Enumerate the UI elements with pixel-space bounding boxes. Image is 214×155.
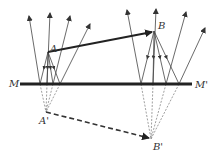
- label-B: B: [157, 20, 165, 31]
- virtual-ray: [141, 84, 151, 139]
- virtual-ray: [46, 84, 60, 112]
- reflected-ray: [29, 16, 40, 84]
- virtual-ray: [151, 84, 166, 139]
- virtual-ray: [151, 84, 153, 139]
- incident-ray: [154, 31, 167, 58]
- diagram-canvas: A B A' B' M M': [0, 0, 214, 155]
- rays-from-A: [29, 13, 90, 84]
- mirror-reflection-diagram: A B A' B' M M': [0, 0, 214, 155]
- virtual-ray: [151, 84, 179, 139]
- label-B-prime: B': [152, 141, 163, 152]
- label-A-prime: A': [38, 115, 49, 126]
- label-A: A: [49, 43, 57, 54]
- reflected-ray: [60, 24, 90, 84]
- rays-from-B: [127, 9, 205, 84]
- incident-ray: [141, 58, 148, 85]
- reflected-ray: [179, 28, 205, 84]
- label-M: M: [8, 78, 20, 89]
- label-M-prime: M': [194, 79, 208, 90]
- incident-ray: [40, 68, 44, 84]
- incident-ray: [160, 58, 166, 85]
- incident-ray: [148, 31, 155, 58]
- virtual-ray: [40, 84, 46, 112]
- incident-ray: [167, 58, 180, 85]
- reflected-ray: [127, 10, 141, 84]
- image-arrow-A'B': [46, 112, 149, 138]
- incident-ray: [51, 68, 54, 84]
- virtual-rays: [40, 84, 179, 139]
- reflected-ray: [166, 12, 186, 84]
